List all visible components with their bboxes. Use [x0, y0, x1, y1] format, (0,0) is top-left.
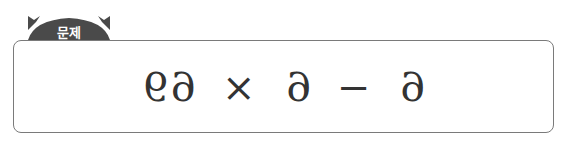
problem-tab: 문제 — [26, 14, 112, 40]
operand-3: 6 — [398, 64, 425, 110]
problem-box: 69 × 6 − 6 — [13, 40, 554, 133]
operand-2: 6 — [284, 64, 311, 110]
operator-minus: − — [337, 64, 373, 110]
operator-multiply: × — [222, 64, 258, 110]
expression: 69 × 6 − 6 — [14, 41, 553, 132]
operand-1: 69 — [141, 64, 196, 110]
tab-label: 문제 — [26, 22, 112, 41]
